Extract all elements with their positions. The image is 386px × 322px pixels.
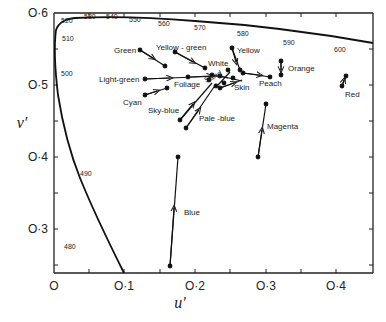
svg-text:530: 530 <box>84 13 96 20</box>
label-cyan: Cyan <box>123 98 142 107</box>
y-axis-title: v' <box>17 114 28 131</box>
label-white: White <box>208 59 229 68</box>
x-tick-0.4: O·4 <box>326 279 346 293</box>
spectrum-locus-curve <box>55 17 373 273</box>
label-yellow: Yellow <box>237 46 260 55</box>
label-green: Green <box>114 46 136 55</box>
svg-text:520: 520 <box>61 17 73 24</box>
x-axis-title: u' <box>174 294 186 311</box>
y-tick-0.5: O·5 <box>28 78 48 92</box>
label-sky-blue: Sky-blue <box>148 106 180 115</box>
label-peach: Peach <box>259 79 282 88</box>
label-skin: Skin <box>234 83 250 92</box>
svg-text:590: 590 <box>283 39 295 46</box>
svg-text:560: 560 <box>158 20 170 27</box>
svg-text:540: 540 <box>106 13 118 20</box>
svg-text:550: 550 <box>129 16 141 23</box>
svg-text:570: 570 <box>194 24 206 31</box>
y-tick-0.4: O·4 <box>28 150 48 164</box>
label-red: Red <box>345 90 360 99</box>
color-shift-arrows <box>138 46 348 268</box>
svg-text:580: 580 <box>237 30 249 37</box>
svg-text:510: 510 <box>62 35 74 42</box>
chromaticity-chart: O O·1 O·2 O·3 O·4 O·6 O·5 O·4 O·3 u' v' … <box>0 0 386 322</box>
svg-text:480: 480 <box>64 243 76 250</box>
label-magenta: Magenta <box>267 122 299 131</box>
svg-text:490: 490 <box>80 170 92 177</box>
x-tick-0.3: O·3 <box>256 279 276 293</box>
label-pale-blue: Pale -blue <box>199 114 236 123</box>
plot-frame <box>54 13 373 273</box>
x-tick-0: O <box>49 279 58 293</box>
x-tick-0.2: O·2 <box>185 279 205 293</box>
svg-text:600: 600 <box>334 46 346 53</box>
y-tick-0.3: O·3 <box>28 222 48 236</box>
label-yellow-green: Yellow - green <box>156 43 206 52</box>
y-tick-0.6: O·6 <box>28 6 48 20</box>
label-blue: Blue <box>184 208 201 217</box>
label-light-green: Light-green <box>99 75 139 84</box>
svg-text:500: 500 <box>61 70 73 77</box>
label-orange: Orange <box>288 64 315 73</box>
label-foliage: Foliage <box>174 80 201 89</box>
x-tick-0.1: O·1 <box>114 279 134 293</box>
